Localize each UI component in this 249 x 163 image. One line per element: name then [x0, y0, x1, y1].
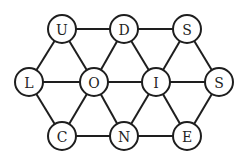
node-s1: S — [173, 15, 201, 43]
node-c: C — [48, 122, 76, 150]
node-label: C — [57, 129, 68, 145]
node-label: S — [214, 75, 224, 91]
node-label: S — [182, 22, 192, 38]
node-u: U — [48, 15, 76, 43]
node-n: N — [110, 122, 138, 150]
node-e: E — [173, 122, 201, 150]
node-o: O — [80, 68, 108, 96]
letter-graph-diagram: UDSLOISCNE — [0, 0, 249, 163]
edges-layer — [29, 29, 219, 136]
node-s2: S — [205, 68, 233, 96]
node-i: I — [142, 68, 170, 96]
node-label: L — [24, 75, 33, 91]
node-label: N — [118, 129, 130, 145]
node-l: L — [15, 68, 43, 96]
node-label: E — [182, 129, 192, 145]
node-d: D — [110, 15, 138, 43]
node-label: O — [88, 75, 99, 91]
node-label: U — [56, 22, 68, 38]
node-label: I — [153, 75, 159, 91]
node-label: D — [118, 22, 129, 38]
